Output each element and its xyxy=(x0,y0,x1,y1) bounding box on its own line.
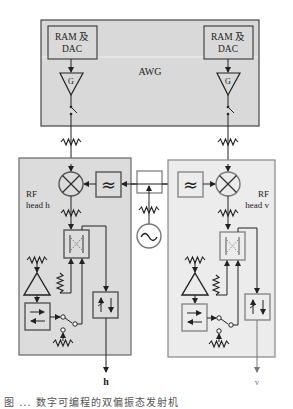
gain-label: G xyxy=(68,77,74,86)
directional-coupler-icon xyxy=(64,230,89,258)
rf-head-h-label-line1: RF xyxy=(26,189,37,199)
mixer-icon xyxy=(59,172,83,196)
filter-symbol: ≈ xyxy=(101,174,116,195)
ram-dac-box xyxy=(48,26,97,59)
isolator-icon xyxy=(93,292,118,318)
output-h-label: h xyxy=(103,376,109,387)
filter-symbol: ≈ xyxy=(183,174,198,195)
gain-label: G xyxy=(225,77,231,86)
transfer-switch-icon xyxy=(182,304,207,331)
ram-label: RAM 及 xyxy=(55,32,89,42)
transfer-switch-icon xyxy=(25,303,50,330)
directional-coupler-icon xyxy=(220,232,245,260)
rf-head-v: RF head v ≈ xyxy=(168,160,275,387)
isolator-icon xyxy=(245,294,270,320)
awg-block: AWG RAM 及 DAC G RAM 及 DAC G xyxy=(41,20,259,164)
ram-label: RAM 及 xyxy=(211,32,245,42)
output-v-label: v xyxy=(255,377,260,387)
dac-label: DAC xyxy=(62,44,82,54)
rf-head-v-label-line1: RF xyxy=(258,189,269,199)
rf-head-h-label-line2: head h xyxy=(26,200,50,210)
dac-label: DAC xyxy=(218,44,238,54)
awg-label: AWG xyxy=(138,66,161,77)
mixer-icon xyxy=(216,172,240,196)
figure-caption: 图 ... 数字可编程的双偏振态发射机 xyxy=(4,394,179,409)
ram-dac-box xyxy=(204,26,253,59)
rf-head-v-label-line2: head v xyxy=(245,200,269,210)
rf-head-h: RF head h ≈ xyxy=(19,158,137,387)
